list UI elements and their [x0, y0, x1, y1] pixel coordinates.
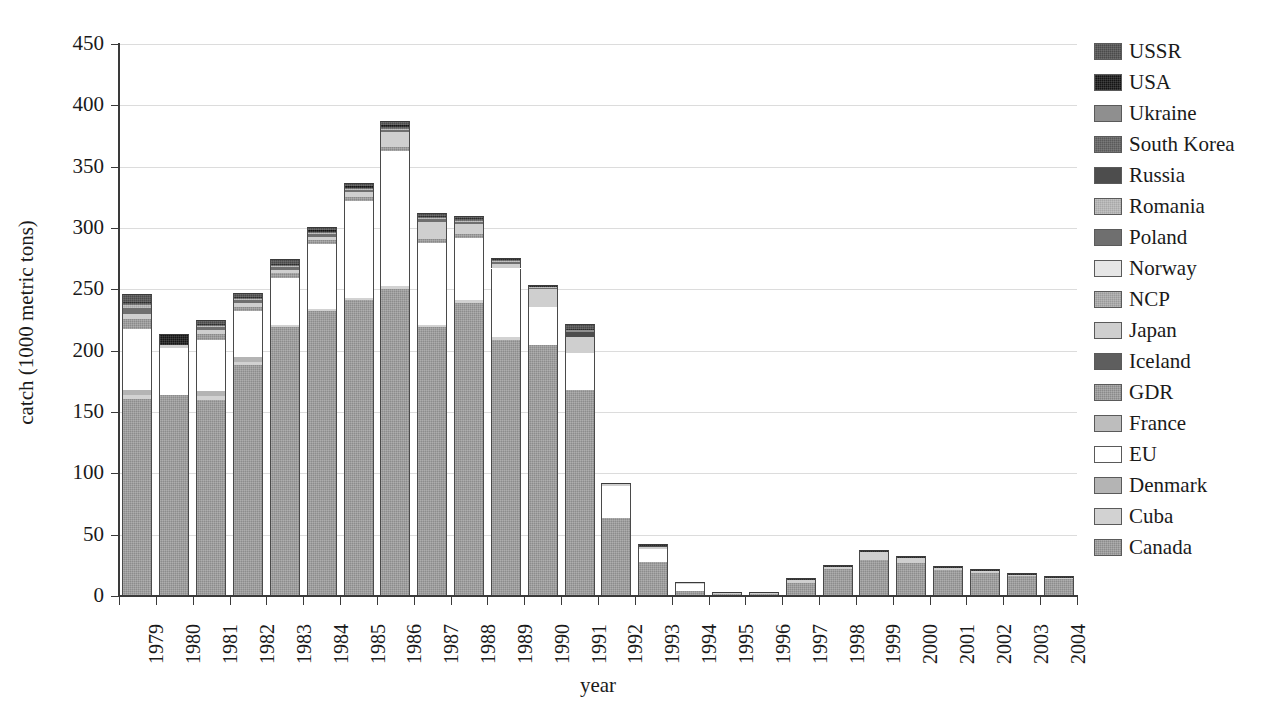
bar-segment-1987-cuba: [417, 325, 447, 327]
x-axis-tick: [1040, 597, 1041, 605]
legend-item-cuba[interactable]: Cuba: [1094, 501, 1273, 532]
legend-swatch-icon: [1094, 43, 1122, 60]
bar-1996[interactable]: [749, 44, 779, 596]
x-axis-tick-label-1995: 1995: [736, 624, 756, 664]
bar-1986[interactable]: [380, 44, 410, 596]
bar-segment-1979-cuba: [122, 395, 152, 399]
bar-segment-1981-japan: [196, 330, 226, 334]
bar-2004[interactable]: [1044, 44, 1074, 596]
bar-1994[interactable]: [675, 44, 705, 596]
bar-segment-1992-eu: [601, 486, 631, 518]
bar-segment-1981-cuba: [196, 396, 226, 400]
bar-segment-1982-ussr: [233, 293, 263, 297]
bar-segment-1989-usa: [491, 258, 521, 260]
bar-segment-1990-canada: [528, 345, 558, 596]
legend-item-russia[interactable]: Russia: [1094, 160, 1273, 191]
y-axis-tick-label: 150: [73, 401, 105, 422]
bar-1993[interactable]: [638, 44, 668, 596]
bar-segment-1987-eu: [417, 243, 447, 325]
bar-segment-2000-japan: [896, 558, 926, 563]
bar-1995[interactable]: [712, 44, 742, 596]
legend-label: South Korea: [1129, 134, 1235, 155]
legend-item-poland[interactable]: Poland: [1094, 222, 1273, 253]
legend-item-france[interactable]: France: [1094, 408, 1273, 439]
bar-1980[interactable]: [159, 44, 189, 596]
y-axis-tick-label: 250: [73, 278, 105, 299]
bar-1999[interactable]: [859, 44, 889, 596]
x-axis-tick: [893, 597, 894, 605]
bar-1982[interactable]: [233, 44, 263, 596]
x-axis-tick-label-1988: 1988: [478, 624, 498, 664]
x-axis-tick: [303, 597, 304, 605]
bar-1990[interactable]: [528, 44, 558, 596]
bar-1989[interactable]: [491, 44, 521, 596]
legend-item-denmark[interactable]: Denmark: [1094, 470, 1273, 501]
bar-segment-1986-canada: [380, 289, 410, 596]
y-axis-tick: [111, 44, 118, 45]
x-axis-tick: [119, 597, 120, 605]
bar-segment-1991-ukraine: [565, 330, 595, 332]
bar-1987[interactable]: [417, 44, 447, 596]
bar-1985[interactable]: [344, 44, 374, 596]
bar-segment-1999-canada: [859, 560, 889, 596]
bar-1979[interactable]: [122, 44, 152, 596]
bar-segment-1987-ussr: [417, 213, 447, 215]
bar-1981[interactable]: [196, 44, 226, 596]
bar-segment-1979-canada: [122, 399, 152, 596]
bar-segment-1988-canada: [454, 303, 484, 596]
bar-segment-1990-japan: [528, 289, 558, 306]
legend-item-norway[interactable]: Norway: [1094, 253, 1273, 284]
bar-2003[interactable]: [1007, 44, 1037, 596]
bar-segment-1979-poland: [122, 308, 152, 314]
legend-item-canada[interactable]: Canada: [1094, 532, 1273, 563]
bar-1998[interactable]: [823, 44, 853, 596]
legend-item-gdr[interactable]: GDR: [1094, 377, 1273, 408]
legend-swatch-icon: [1094, 74, 1122, 91]
legend-label: USA: [1129, 72, 1171, 93]
y-axis-label: catch (1000 metric tons): [14, 47, 39, 599]
legend-item-ussr[interactable]: USSR: [1094, 36, 1273, 67]
bar-segment-1987-gdr: [417, 239, 447, 243]
bar-segment-2003-canada: [1007, 576, 1037, 596]
x-axis-tick-label-1999: 1999: [883, 624, 903, 664]
bar-segment-1997-canada: [786, 583, 816, 596]
bar-segment-1990-usa: [528, 285, 558, 287]
bar-segment-2001-usa: [933, 566, 963, 568]
bar-segment-1980-japan: [159, 345, 189, 349]
bar-segment-1979-south-korea: [122, 303, 152, 305]
legend-item-ncp[interactable]: NCP: [1094, 284, 1273, 315]
legend-item-iceland[interactable]: Iceland: [1094, 346, 1273, 377]
x-axis-tick-label-2002: 2002: [994, 624, 1014, 664]
bar-segment-1986-eu: [380, 151, 410, 286]
y-axis-tick: [111, 473, 118, 474]
bar-1991[interactable]: [565, 44, 595, 596]
bar-segment-1990-eu: [528, 307, 558, 345]
bar-segment-1985-poland: [344, 190, 374, 192]
bar-2002[interactable]: [970, 44, 1000, 596]
x-axis-tick-label-2003: 2003: [1031, 624, 1051, 664]
bar-1997[interactable]: [786, 44, 816, 596]
legend-item-south-korea[interactable]: South Korea: [1094, 129, 1273, 160]
bar-2001[interactable]: [933, 44, 963, 596]
bar-segment-1983-ussr: [270, 259, 300, 264]
bar-2000[interactable]: [896, 44, 926, 596]
bar-1984[interactable]: [307, 44, 337, 596]
legend-item-japan[interactable]: Japan: [1094, 315, 1273, 346]
bar-1983[interactable]: [270, 44, 300, 596]
chart-root: catch (1000 metric tons) 050100150200250…: [0, 0, 1273, 715]
legend-item-usa[interactable]: USA: [1094, 67, 1273, 98]
bar-segment-1992-japan: [601, 483, 631, 485]
legend-item-ukraine[interactable]: Ukraine: [1094, 98, 1273, 129]
bar-1988[interactable]: [454, 44, 484, 596]
legend-item-eu[interactable]: EU: [1094, 439, 1273, 470]
legend-item-romania[interactable]: Romania: [1094, 191, 1273, 222]
bar-segment-1984-eu: [307, 244, 337, 309]
bar-segment-1987-japan: [417, 222, 447, 239]
legend-label: Japan: [1129, 320, 1177, 341]
bar-segment-1982-denmark: [233, 357, 263, 362]
bar-1992[interactable]: [601, 44, 631, 596]
bar-segment-2002-canada: [970, 573, 1000, 596]
legend-swatch-icon: [1094, 415, 1122, 432]
plot-area: [119, 44, 1077, 596]
x-axis-tick: [966, 597, 967, 605]
